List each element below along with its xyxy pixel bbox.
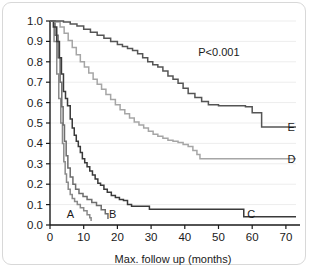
curve-label-b: B bbox=[109, 208, 116, 220]
x-tick-label: 50 bbox=[212, 231, 225, 243]
y-tick-label: 0.1 bbox=[27, 199, 43, 211]
curve-label-e: E bbox=[288, 121, 295, 133]
y-axis-ticks: 0.00.10.20.30.40.50.60.70.80.91.0 bbox=[27, 15, 50, 231]
figure-card: 0.00.10.20.30.40.50.60.70.80.91.0 010203… bbox=[2, 2, 306, 265]
y-tick-label: 0.8 bbox=[27, 56, 43, 68]
x-tick-label: 60 bbox=[246, 231, 259, 243]
y-tick-label: 0.5 bbox=[27, 117, 43, 129]
x-tick-label: 0 bbox=[47, 231, 53, 243]
y-tick-label: 0.6 bbox=[27, 97, 43, 109]
y-tick-label: 0.4 bbox=[27, 137, 44, 149]
x-tick-label: 30 bbox=[145, 231, 158, 243]
curve-a bbox=[50, 21, 91, 221]
curve-label-d: D bbox=[288, 153, 296, 165]
survival-curves bbox=[50, 21, 296, 221]
y-tick-label: 0.9 bbox=[27, 35, 43, 47]
curve-e bbox=[50, 21, 296, 127]
curve-c bbox=[50, 21, 296, 217]
y-tick-label: 0.2 bbox=[27, 178, 43, 190]
curve-label-c: C bbox=[247, 208, 255, 220]
x-tick-label: 70 bbox=[279, 231, 292, 243]
p-value-annotation: P<0.001 bbox=[198, 46, 239, 58]
curve-label-a: A bbox=[67, 208, 75, 220]
survival-chart: 0.00.10.20.30.40.50.60.70.80.91.0 010203… bbox=[3, 3, 312, 269]
x-tick-label: 10 bbox=[77, 231, 90, 243]
x-axis-title: Max. follow up (months) bbox=[115, 253, 232, 265]
y-tick-label: 0.7 bbox=[27, 76, 43, 88]
x-tick-label: 40 bbox=[178, 231, 191, 243]
y-tick-label: 0.3 bbox=[27, 158, 43, 170]
x-axis-ticks: 010203040506070 bbox=[47, 225, 292, 243]
y-tick-label: 1.0 bbox=[27, 15, 43, 27]
y-tick-label: 0.0 bbox=[27, 219, 43, 231]
x-tick-label: 20 bbox=[111, 231, 124, 243]
